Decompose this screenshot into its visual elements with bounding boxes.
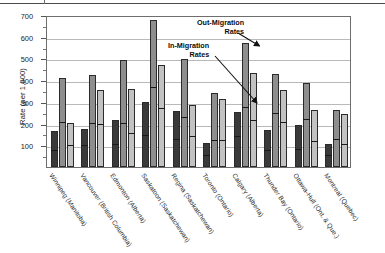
bar [81, 129, 88, 167]
y-tick-mark [41, 146, 46, 147]
bar-inner-marker [112, 144, 119, 145]
bar-inner-marker [142, 135, 149, 136]
bar [303, 83, 310, 167]
y-minor-tick [43, 70, 46, 71]
bar [158, 65, 165, 167]
bar-inner-marker [280, 122, 287, 123]
y-minor-tick [43, 27, 46, 28]
bar [219, 99, 226, 167]
bar-inner-marker [189, 136, 196, 137]
page-top-rule [0, 3, 385, 4]
bar-inner-marker [51, 150, 58, 151]
page-top-tick [44, 0, 45, 4]
bar [341, 114, 348, 167]
bar-group [291, 17, 322, 167]
bar [120, 60, 127, 167]
bar [67, 123, 74, 167]
y-tick-mark [41, 125, 46, 126]
bar-inner-marker [97, 124, 104, 125]
y-tick-label: 700 [21, 12, 33, 21]
y-minor-tick [43, 157, 46, 158]
y-axis-tick-labels: 100200300400500600700 [0, 16, 41, 168]
bar-inner-marker [295, 149, 302, 150]
bar-inner-marker [234, 136, 241, 137]
annotation-in-migration: In-Migration Rates [168, 42, 209, 59]
bar-inner-marker [150, 87, 157, 88]
bar [280, 90, 287, 167]
bar [264, 130, 271, 167]
bar-group [261, 17, 292, 167]
bar-group [139, 17, 170, 167]
bar-group [322, 17, 353, 167]
bar [203, 143, 210, 167]
y-tick-mark [41, 59, 46, 60]
bar-inner-marker [303, 119, 310, 120]
y-tick-mark [41, 81, 46, 82]
y-tick-mark [41, 38, 46, 39]
x-tick-label: Calgary (Alberta) [231, 172, 265, 218]
bar-inner-marker [272, 113, 279, 114]
bar [112, 120, 119, 167]
bar-inner-marker [242, 107, 249, 108]
bar-inner-marker [158, 108, 165, 109]
bar [150, 20, 157, 167]
y-tick-label: 400 [21, 77, 33, 86]
bar-group [169, 17, 200, 167]
bar [128, 89, 135, 167]
bar-inner-marker [203, 155, 210, 156]
bar-inner-marker [219, 140, 226, 141]
x-axis-tick-labels: Winnipeg (Manitoba)Vancouver (British Co… [46, 170, 351, 253]
bar-inner-marker [81, 145, 88, 146]
bar-inner-marker [333, 139, 340, 140]
bar [173, 111, 180, 167]
chart-page: Rate (per 1,000) 100200300400500600700 W… [0, 0, 385, 253]
bar-inner-marker [89, 123, 96, 124]
bar [89, 75, 96, 167]
bar [242, 43, 249, 167]
x-tick-label: Toronto (Ontario) [201, 172, 235, 218]
y-tick-mark [41, 16, 46, 17]
bar [189, 105, 196, 167]
y-minor-tick [43, 135, 46, 136]
bar-group [47, 17, 78, 167]
bar-inner-marker [264, 150, 271, 151]
bar [51, 131, 58, 167]
bar-inner-marker [325, 155, 332, 156]
bar [295, 125, 302, 167]
annotation-out-migration-line2: Rates [225, 27, 245, 36]
y-tick-label: 500 [21, 55, 33, 64]
bar [311, 110, 318, 167]
bar [181, 59, 188, 167]
bar [211, 93, 218, 167]
bar-inner-marker [59, 122, 66, 123]
y-tick-label: 300 [21, 98, 33, 107]
y-tick-label: 100 [21, 142, 33, 151]
bar-inner-marker [67, 145, 74, 146]
x-tick-label: Montreal (Quebec) [323, 172, 360, 222]
bar [97, 90, 104, 167]
bar-group [230, 17, 261, 167]
bar-inner-marker [211, 140, 218, 141]
bar-inner-marker [181, 117, 188, 118]
x-tick-label: Vancouver (British Columbia) [79, 172, 133, 248]
bar [272, 74, 279, 167]
y-tick-mark [41, 103, 46, 104]
bar-group [78, 17, 109, 167]
bar [333, 110, 340, 167]
plot-area [46, 16, 351, 168]
bar-inner-marker [120, 123, 127, 124]
bar [234, 112, 241, 167]
bar [325, 144, 332, 167]
annotation-out-migration: Out-Migration Rates [197, 19, 244, 36]
bar-inner-marker [173, 139, 180, 140]
bar-group [108, 17, 139, 167]
y-minor-tick [43, 49, 46, 50]
bar-group [200, 17, 231, 167]
y-tick-label: 600 [21, 33, 33, 42]
bar [59, 78, 66, 167]
bar-inner-marker [341, 144, 348, 145]
annotation-in-migration-line2: Rates [190, 50, 210, 59]
y-minor-tick [43, 92, 46, 93]
bar-series-container [47, 17, 350, 167]
y-tick-label: 200 [21, 120, 33, 129]
